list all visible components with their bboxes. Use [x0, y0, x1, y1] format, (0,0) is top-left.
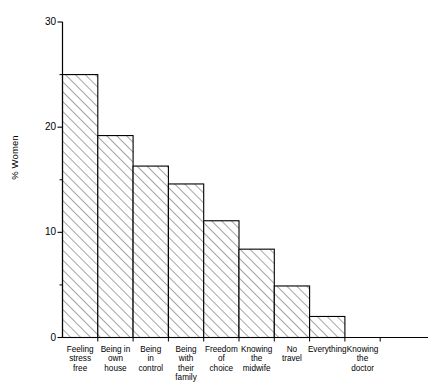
y-axis-tick-label: 10 — [32, 227, 56, 237]
bar — [168, 184, 203, 338]
bar — [239, 249, 274, 337]
bar — [133, 166, 168, 337]
y-axis-title: % Women — [9, 118, 20, 198]
y-axis-tick-label: 0 — [32, 333, 56, 343]
y-axis-ticks — [58, 22, 63, 338]
y-axis-tick-label: 20 — [32, 122, 56, 132]
y-axis-tick-labels: 0102030 — [30, 0, 56, 392]
y-axis-tick-label: 30 — [32, 17, 56, 27]
bar — [274, 286, 309, 338]
chart-plot-area — [0, 0, 438, 392]
x-axis-category-label: Knowing the doctor — [339, 345, 386, 373]
bar — [98, 136, 133, 338]
bar — [310, 316, 345, 337]
bar — [204, 221, 239, 338]
bar — [63, 75, 98, 338]
bars-group — [63, 75, 345, 338]
bar-chart: 0102030 % Women Feeling stress freeBeing… — [0, 0, 438, 392]
